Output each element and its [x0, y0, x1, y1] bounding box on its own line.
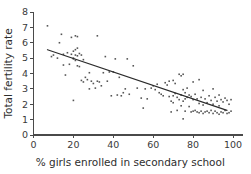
data-point: [196, 111, 198, 113]
data-point: [77, 47, 79, 49]
data-point: [63, 64, 65, 66]
data-point: [53, 54, 55, 56]
data-point: [180, 105, 182, 107]
data-point: [208, 95, 210, 97]
data-point: [120, 95, 122, 97]
data-point: [87, 79, 89, 81]
data-point: [170, 100, 172, 102]
y-tick-label-3: 3: [22, 83, 28, 94]
data-point: [172, 95, 174, 97]
y-tick-label-2: 2: [22, 99, 28, 110]
data-point: [89, 72, 91, 74]
y-tick-label-0: 0: [22, 129, 28, 140]
data-point: [115, 58, 117, 60]
data-point: [196, 98, 198, 100]
data-point: [75, 35, 77, 37]
data-point: [226, 113, 228, 115]
data-point: [208, 112, 210, 114]
data-point: [202, 104, 204, 106]
x-tick-label-40: 40: [107, 139, 119, 150]
plot-content: 012345678020406080100% girls enrolled in…: [2, 6, 244, 168]
data-point: [164, 82, 166, 84]
data-point: [186, 87, 188, 89]
data-point: [214, 110, 216, 112]
data-point: [166, 84, 168, 86]
data-point: [184, 92, 186, 94]
data-point: [79, 53, 81, 55]
data-point: [109, 71, 111, 73]
data-point: [162, 95, 164, 97]
data-point: [69, 63, 71, 65]
data-point: [192, 110, 194, 112]
data-point: [172, 80, 174, 82]
data-point: [178, 99, 180, 101]
data-point: [220, 111, 222, 113]
data-point: [117, 94, 119, 96]
data-point: [59, 42, 61, 44]
data-point: [184, 110, 186, 112]
x-tick-label-80: 80: [187, 139, 199, 150]
data-point: [81, 54, 83, 56]
data-point: [188, 94, 190, 96]
data-point: [142, 107, 144, 109]
x-tick-label-100: 100: [224, 139, 242, 150]
data-point: [230, 99, 232, 101]
trend-line: [47, 50, 227, 111]
data-point: [190, 96, 192, 98]
plot-canvas: 012345678020406080100% girls enrolled in…: [0, 0, 251, 174]
data-point: [212, 113, 214, 115]
x-axis-title: % girls enrolled in secondary school: [36, 156, 225, 168]
data-point: [158, 92, 160, 94]
data-point: [73, 100, 75, 102]
y-tick-label-7: 7: [22, 22, 28, 33]
data-point: [176, 97, 178, 99]
data-point: [132, 65, 134, 67]
data-point: [182, 89, 184, 91]
data-point: [228, 112, 230, 114]
data-point: [172, 102, 174, 104]
x-tick-label-0: 0: [30, 139, 36, 150]
data-point: [85, 77, 87, 79]
x-tick-label-20: 20: [67, 139, 79, 150]
data-point: [190, 111, 192, 113]
x-tick-label-60: 60: [147, 139, 159, 150]
data-point: [73, 50, 75, 52]
data-point: [184, 98, 186, 100]
data-point: [57, 57, 59, 59]
data-point-group: [47, 25, 232, 120]
data-point: [168, 96, 170, 98]
data-point: [71, 53, 73, 55]
data-point: [122, 92, 124, 94]
data-point: [182, 100, 184, 102]
data-point: [77, 65, 79, 67]
data-point: [103, 72, 105, 74]
data-point: [216, 100, 218, 102]
data-point: [204, 98, 206, 100]
data-point: [180, 75, 182, 77]
data-point: [218, 113, 220, 115]
data-point: [210, 100, 212, 102]
data-point: [75, 49, 77, 51]
data-point: [188, 106, 190, 108]
y-axis-title: Total fertility rate: [2, 28, 14, 119]
data-point: [200, 110, 202, 112]
data-point: [71, 37, 73, 39]
data-point: [111, 95, 113, 97]
data-point: [218, 105, 220, 107]
data-point: [168, 80, 170, 82]
data-point: [182, 118, 184, 120]
data-point: [216, 112, 218, 114]
data-point: [206, 110, 208, 112]
data-point: [140, 97, 142, 99]
data-point: [77, 55, 79, 57]
data-point: [93, 83, 95, 85]
data-point: [222, 101, 224, 103]
data-point: [105, 56, 107, 58]
data-point: [218, 94, 220, 96]
data-point: [97, 80, 99, 82]
data-point: [178, 73, 180, 75]
data-point: [79, 66, 81, 68]
data-point: [51, 56, 53, 58]
data-point: [119, 77, 121, 79]
data-point: [210, 110, 212, 112]
